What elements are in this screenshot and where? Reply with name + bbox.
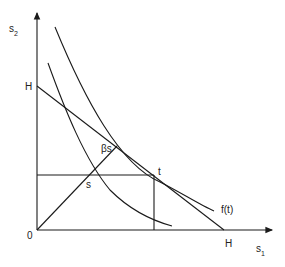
point-beta-s-label: βs <box>101 143 112 154</box>
diagram-canvas: s2 s1 0 H H t s βs f(t) <box>0 0 285 267</box>
ray-from-origin <box>37 146 117 230</box>
origin-label: 0 <box>27 230 33 241</box>
curve-f-t-label: f(t) <box>221 204 233 215</box>
curve-f-t <box>55 27 214 211</box>
h-label-y-axis: H <box>25 81 32 92</box>
point-s-label: s <box>86 179 91 190</box>
h-label-x-axis: H <box>225 238 232 249</box>
x-axis-label: s1 <box>256 243 265 257</box>
point-t-label: t <box>158 166 161 177</box>
y-axis-label: s2 <box>9 23 18 37</box>
